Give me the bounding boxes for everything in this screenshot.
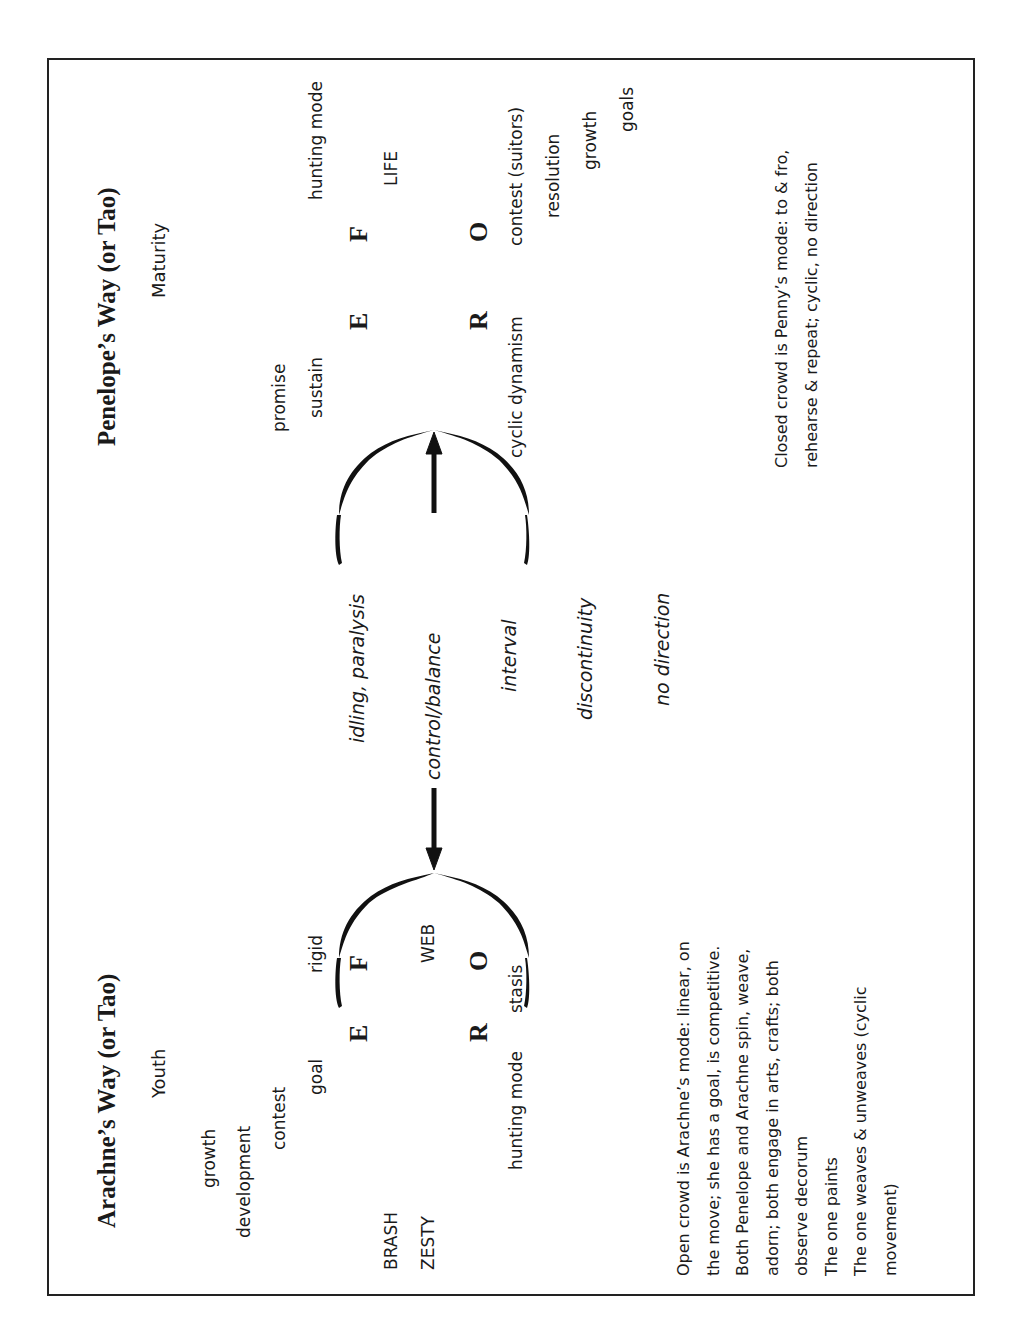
word-cyclic-dynamism: cyclic dynamism (506, 316, 526, 458)
diagram-frame: Arachne’s Way (or Tao) Youth growth deve… (47, 58, 975, 1296)
label-control-balance: control/balance (423, 633, 443, 780)
word-sustain: sustain (306, 357, 326, 418)
letter-r-right: R (465, 311, 493, 330)
label-idling-paralysis: idling, paralysis (347, 594, 367, 743)
word-contest-suitors: contest (suitors) (506, 107, 526, 246)
letter-f-right: F (345, 226, 373, 242)
left-brace-icon (335, 873, 529, 1008)
rotated-canvas: Arachne’s Way (or Tao) Youth growth deve… (49, 60, 977, 1298)
word-promise: promise (269, 364, 289, 432)
letter-o-right: O (465, 222, 493, 242)
penelope-subtitle: Maturity (149, 223, 169, 298)
note-line: Closed crowd is Penny’s mode: to & fro, (767, 150, 797, 468)
word-hunting-mode-right: hunting mode (306, 81, 326, 200)
word-growth-right: growth (580, 111, 600, 170)
word-resolution: resolution (543, 134, 563, 218)
penelope-notes: Closed crowd is Penny’s mode: to & fro, … (767, 150, 826, 468)
penelope-title: Penelope’s Way (or Tao) (93, 187, 121, 446)
label-no-direction: no direction (652, 593, 672, 706)
letter-e-right: E (345, 313, 373, 330)
label-discontinuity: discontinuity (575, 598, 595, 720)
note-line: rehearse & repeat; cyclic, no direction (797, 150, 827, 468)
label-interval: interval (499, 620, 519, 692)
word-goals: goals (617, 87, 637, 132)
word-life: LIFE (381, 151, 401, 186)
